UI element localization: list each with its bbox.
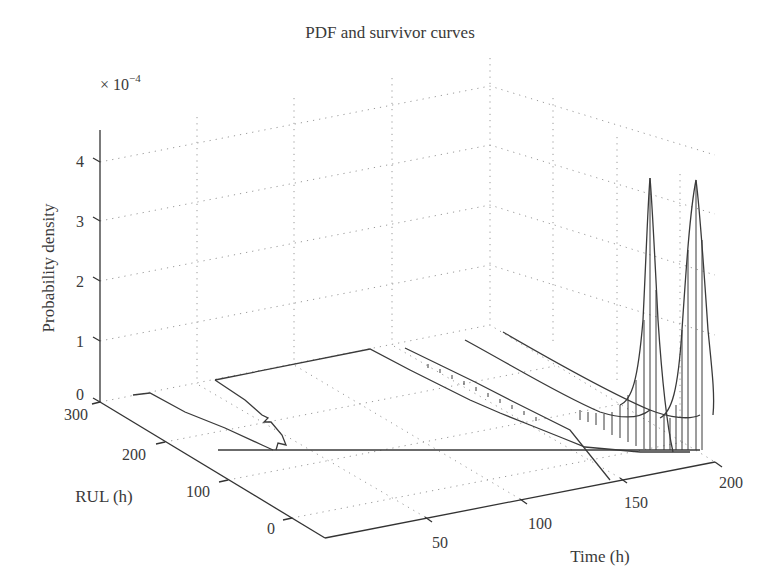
z-tick-2: 2 xyxy=(76,273,84,290)
z-multiplier: × 10−4 xyxy=(100,72,141,93)
grid-lines xyxy=(100,58,715,518)
axes xyxy=(92,130,722,538)
rul-tick-300: 300 xyxy=(64,406,88,423)
data-series xyxy=(133,178,714,480)
pdf-peak-2 xyxy=(660,180,714,418)
z-tick-3: 3 xyxy=(76,213,84,230)
z-tick-0: 0 xyxy=(76,386,84,403)
z-tick-4: 4 xyxy=(76,153,84,170)
pdf-survivor-3d-chart: PDF and survivor curves × 10−4 xyxy=(0,0,783,586)
time-tick-50: 50 xyxy=(432,534,448,551)
time-axis-label: Time (h) xyxy=(570,547,629,566)
z-axis-label: Probability density xyxy=(39,203,58,332)
time-tick-100: 100 xyxy=(528,515,552,532)
rul-axis-label: RUL (h) xyxy=(75,487,132,506)
survivor-curve-3 xyxy=(405,348,610,480)
survivor-curve-1 xyxy=(133,393,273,450)
rul-tick-200: 200 xyxy=(122,446,146,463)
rul-tick-0: 0 xyxy=(267,520,275,537)
chart-title: PDF and survivor curves xyxy=(305,23,475,42)
time-tick-200: 200 xyxy=(719,474,743,491)
tick-labels: 4 3 2 1 0 300 200 100 0 50 100 150 200 xyxy=(64,153,743,551)
survivor-3-hatching xyxy=(428,364,536,421)
time-tick-150: 150 xyxy=(624,494,648,511)
z-tick-1: 1 xyxy=(76,333,84,350)
survivor-curve-2 xyxy=(215,349,690,452)
rul-tick-100: 100 xyxy=(186,483,210,500)
